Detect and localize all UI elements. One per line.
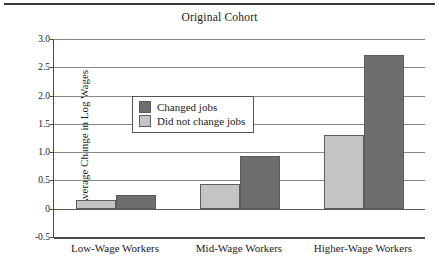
y-tick-label: 1.0 bbox=[38, 147, 50, 157]
y-tick-label: 2.5 bbox=[38, 62, 50, 72]
legend-label-changed-jobs: Changed jobs bbox=[157, 101, 217, 113]
gridline-3-0 bbox=[54, 39, 425, 40]
x-axis-group-label: Mid-Wage Workers bbox=[177, 242, 301, 254]
legend-swatch-dark bbox=[139, 101, 151, 113]
chart-title: Original Cohort bbox=[0, 11, 439, 23]
chart-legend: Changed jobs Did not change jobs bbox=[132, 96, 254, 133]
y-tick-label: 2.0 bbox=[38, 91, 50, 101]
y-tick-mark bbox=[50, 180, 54, 181]
legend-label-did-not-change-jobs: Did not change jobs bbox=[157, 115, 245, 127]
bar bbox=[76, 200, 116, 209]
chart-figure: Original Cohort Average Change in Log Wa… bbox=[0, 0, 439, 275]
y-tick-label: 3.0 bbox=[38, 34, 50, 44]
gridline--0-5 bbox=[54, 237, 425, 239]
y-tick-mark bbox=[50, 237, 54, 238]
legend-item-did-not-change-jobs: Did not change jobs bbox=[139, 114, 245, 128]
x-axis-group-label: Low-Wage Workers bbox=[53, 242, 177, 254]
bar bbox=[116, 195, 156, 209]
y-tick-mark bbox=[50, 124, 54, 125]
y-tick-mark bbox=[50, 96, 54, 97]
y-tick-label: -0.5 bbox=[35, 232, 50, 242]
bar bbox=[364, 55, 404, 208]
y-tick-label: 1.5 bbox=[38, 119, 50, 129]
y-tick-label: 0.5 bbox=[38, 175, 50, 185]
legend-item-changed-jobs: Changed jobs bbox=[139, 100, 245, 114]
bar bbox=[324, 135, 364, 209]
plot-area: Average Change in Log Wages 3.02.52.01.5… bbox=[53, 39, 425, 237]
y-tick-mark bbox=[50, 152, 54, 153]
legend-swatch-light bbox=[139, 115, 151, 127]
y-tick-label: 0 bbox=[45, 204, 50, 214]
gridline-0 bbox=[54, 209, 425, 210]
top-horizontal-rule bbox=[4, 3, 435, 5]
bar bbox=[200, 184, 240, 209]
y-tick-mark bbox=[50, 39, 54, 40]
y-tick-mark bbox=[50, 67, 54, 68]
x-axis-group-label: Higher-Wage Workers bbox=[301, 242, 425, 254]
y-tick-mark bbox=[50, 209, 54, 210]
bar bbox=[240, 156, 280, 209]
